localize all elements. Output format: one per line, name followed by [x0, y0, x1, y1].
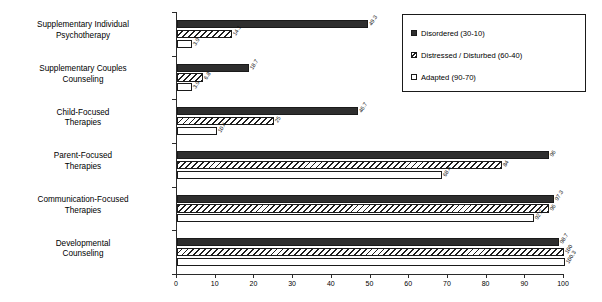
bar [177, 248, 564, 256]
bar-value-label: 84 [502, 159, 510, 167]
x-tick [447, 274, 448, 278]
bar [177, 171, 442, 179]
bar [177, 258, 565, 266]
bar [177, 151, 549, 159]
x-tick [215, 274, 216, 278]
x-tick-label: 10 [211, 280, 219, 287]
chart-legend: Disordered (30-10)Distressed / Disturbed… [402, 14, 586, 92]
bar-value-label: 96 [548, 203, 556, 211]
category-label: Supplementary Individual Psychotherapy [0, 20, 166, 41]
bar-chart: Supplementary Individual PsychotherapySu… [0, 0, 602, 302]
x-tick-label: 50 [366, 280, 374, 287]
x-tick-label: 90 [520, 280, 528, 287]
bar [177, 83, 192, 91]
y-tick [172, 187, 176, 188]
category-label: Developmental Counseling [0, 239, 166, 260]
x-tick [253, 274, 254, 278]
bar [177, 64, 249, 72]
x-tick [331, 274, 332, 278]
x-tick [524, 274, 525, 278]
category-label: Communication-Focused Therapies [0, 195, 166, 216]
x-tick [370, 274, 371, 278]
x-tick-label: 0 [174, 280, 178, 287]
bar-value-label: 97.3 [553, 189, 564, 201]
bar [177, 73, 203, 81]
x-tick-label: 30 [288, 280, 296, 287]
bar [177, 20, 368, 28]
bar [177, 40, 192, 48]
x-tick-label: 100 [557, 280, 569, 287]
legend-item[interactable]: Adapted (90-70) [411, 66, 585, 88]
x-tick [408, 274, 409, 278]
category-label: Supplementary Couples Counseling [0, 64, 166, 85]
y-tick [172, 99, 176, 100]
bar [177, 30, 232, 38]
bar-value-label: 96 [548, 149, 556, 157]
legend-swatch-icon [411, 30, 417, 36]
legend-label: Adapted (90-70) [421, 73, 476, 82]
bar-value-label: 46.7 [357, 102, 368, 114]
bar [177, 214, 534, 222]
x-tick [292, 274, 293, 278]
bar [177, 238, 559, 246]
y-tick [172, 143, 176, 144]
bar-value-label: 25 [273, 115, 281, 123]
x-tick-label: 70 [443, 280, 451, 287]
y-tick [172, 230, 176, 231]
x-tick-label: 20 [249, 280, 257, 287]
bar-value-label: 49.3 [367, 14, 378, 26]
bar [177, 107, 358, 115]
bar [177, 195, 554, 203]
x-tick [176, 274, 177, 278]
category-label: Parent-Focused Therapies [0, 151, 166, 172]
x-tick-label: 60 [404, 280, 412, 287]
legend-label: Distressed / Disturbed (60-40) [421, 51, 522, 60]
bar [177, 127, 217, 135]
y-axis-line [176, 12, 177, 274]
bar [177, 204, 549, 212]
legend-label: Disordered (30-10) [421, 29, 485, 38]
x-tick [486, 274, 487, 278]
y-tick [172, 56, 176, 57]
bar [177, 161, 502, 169]
x-tick-label: 80 [482, 280, 490, 287]
x-tick [563, 274, 564, 278]
legend-swatch-icon [411, 74, 417, 80]
x-tick-label: 40 [327, 280, 335, 287]
bar-value-label: 18.7 [249, 58, 260, 70]
legend-item[interactable]: Distressed / Disturbed (60-40) [411, 44, 585, 66]
legend-item[interactable]: Disordered (30-10) [411, 22, 585, 44]
category-axis-labels: Supplementary Individual PsychotherapySu… [0, 12, 172, 274]
legend-swatch-icon [411, 52, 417, 58]
bar-value-label: 3.9 [192, 80, 201, 90]
y-tick [172, 12, 176, 13]
category-label: Child-Focused Therapies [0, 108, 166, 129]
